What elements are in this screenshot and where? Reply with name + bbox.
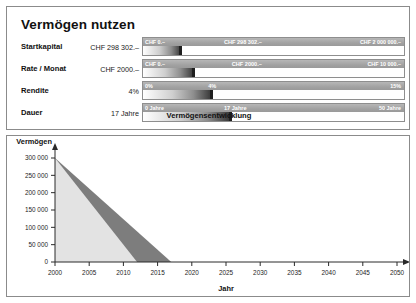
slider-max-label: CHF 10 000.– <box>367 60 401 68</box>
row-value: CHF 2000.– <box>67 65 139 74</box>
slider-current-label: CHF 298 302.– <box>224 38 262 46</box>
x-axis-title: Jahr <box>218 284 234 293</box>
control-row-rendite: Rendite 4% 0% 4% 15% <box>7 81 411 102</box>
x-tick-label: 2045 <box>356 269 371 276</box>
slider-fill <box>143 68 195 77</box>
slider-track[interactable] <box>143 46 404 55</box>
x-tick-label: 2040 <box>321 269 336 276</box>
slider-current-label: CHF 2000.– <box>232 60 262 68</box>
controls-panel: Vermögen nutzen Startkapital CHF 298 302… <box>6 6 410 130</box>
y-tick-label: 50 000 <box>28 241 48 248</box>
x-tick-label: 2025 <box>219 269 234 276</box>
slider-min-label: CHF 0.– <box>145 38 165 46</box>
row-value: CHF 298 302.– <box>67 43 139 52</box>
x-tick-label: 2035 <box>287 269 302 276</box>
slider-max-label: 15% <box>390 82 401 90</box>
slider-fill <box>143 46 182 55</box>
slider-scale: CHF 0.– CHF 298 302.– CHF 2 000 000.– <box>143 38 404 46</box>
slider-startkapital[interactable]: CHF 0.– CHF 298 302.– CHF 2 000 000.– <box>142 37 405 56</box>
y-tick-label: 150 000 <box>25 206 49 213</box>
app-window: Vermögen nutzen Startkapital CHF 298 302… <box>0 0 416 303</box>
slider-scale: CHF 0.– CHF 2000.– CHF 10 000.– <box>143 60 404 68</box>
slider-handle[interactable] <box>210 90 213 99</box>
x-tick-label: 2000 <box>48 269 63 276</box>
y-axis-title: Vermögen <box>16 137 52 146</box>
y-tick-label: 200 000 <box>25 189 49 196</box>
y-tick-label: 250 000 <box>25 172 49 179</box>
page-title: Vermögen nutzen <box>21 17 135 32</box>
y-tick-label: 300 000 <box>25 154 49 161</box>
slider-max-label: CHF 2 000 000.– <box>360 38 401 46</box>
x-tick-label: 2050 <box>390 269 405 276</box>
x-tick-label: 2005 <box>82 269 97 276</box>
x-tick-label: 2015 <box>150 269 165 276</box>
x-axis-arrow <box>403 259 409 265</box>
slider-current-label: 4% <box>208 82 216 90</box>
slider-fill <box>143 90 213 99</box>
slider-track[interactable] <box>143 68 404 77</box>
slider-rate-monat[interactable]: CHF 0.– CHF 2000.– CHF 10 000.– <box>142 59 405 78</box>
x-tick-label: 2030 <box>253 269 268 276</box>
chart-panel: 050 000100 000150 000200 000250 000300 0… <box>6 135 410 297</box>
row-value: 4% <box>67 87 139 96</box>
row-label: Rate / Monat <box>21 64 66 73</box>
slider-min-label: CHF 0.– <box>145 60 165 68</box>
wealth-development-chart: 050 000100 000150 000200 000250 000300 0… <box>7 136 409 296</box>
y-axis-arrow <box>52 143 58 150</box>
x-tick-label: 2020 <box>185 269 200 276</box>
chart-caption: Vermögensentwicklung <box>7 111 411 120</box>
slider-handle[interactable] <box>192 68 195 77</box>
slider-track[interactable] <box>143 90 404 99</box>
slider-rendite[interactable]: 0% 4% 15% <box>142 81 405 100</box>
y-tick-label: 0 <box>44 258 48 265</box>
slider-handle[interactable] <box>179 46 182 55</box>
row-label: Rendite <box>21 86 49 95</box>
x-tick-label: 2010 <box>116 269 131 276</box>
y-tick-label: 100 000 <box>25 224 49 231</box>
slider-min-label: 0% <box>145 82 153 90</box>
slider-scale: 0% 4% 15% <box>143 82 404 90</box>
row-label: Startkapital <box>21 42 62 51</box>
control-row-startkapital: Startkapital CHF 298 302.– CHF 0.– CHF 2… <box>7 37 411 58</box>
control-row-rate-monat: Rate / Monat CHF 2000.– CHF 0.– CHF 2000… <box>7 59 411 80</box>
